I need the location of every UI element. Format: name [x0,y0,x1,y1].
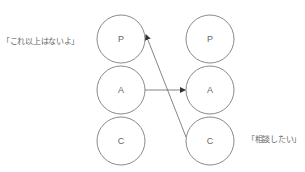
left-node-a-label: A [118,85,124,95]
left-node-c: C [97,117,145,165]
right-node-c: C [186,117,234,165]
left-node-p: P [97,15,145,63]
right-node-a: A [186,66,234,114]
right-node-a-label: A [207,85,213,95]
left-node-a: A [97,66,145,114]
right-quote-annotation: 「相談したい」 [247,133,301,144]
arrow-right-c-to-left-p [146,35,186,137]
left-quote-annotation: 「これ以上はないよ」 [2,35,79,46]
pac-diagram: P A C P A C [0,0,305,172]
right-node-c-label: C [207,136,214,146]
right-node-p: P [186,15,234,63]
left-node-c-label: C [118,136,125,146]
right-node-p-label: P [207,34,213,44]
left-node-p-label: P [118,34,124,44]
